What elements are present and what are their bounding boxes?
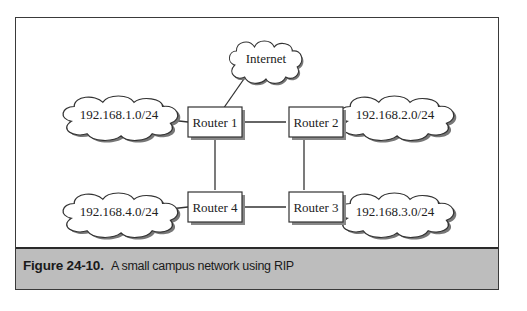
router-label-4: Router 4 — [192, 200, 238, 215]
router-label-2: Router 2 — [293, 115, 338, 130]
router-1: Router 1 — [188, 107, 245, 140]
cloud-label-net2: 192.168.2.0/24 — [356, 107, 435, 122]
cloud-label-net4: 192.168.4.0/24 — [80, 204, 159, 219]
caption-bar: Figure 24-10. A small campus network usi… — [16, 247, 498, 289]
network-diagram: Internet 192.168.1.0/24 192.168.2.0/24 1… — [16, 18, 500, 249]
figure-caption: A small campus network using RIP — [111, 259, 294, 273]
router-4: Router 4 — [188, 192, 245, 225]
cloud-label-internet: Internet — [246, 51, 287, 66]
cloud-label-net3: 192.168.3.0/24 — [356, 204, 435, 219]
figure-frame: Internet 192.168.1.0/24 192.168.2.0/24 1… — [15, 17, 499, 290]
cloud-label-net1: 192.168.1.0/24 — [80, 107, 159, 122]
router-label-3: Router 3 — [293, 200, 338, 215]
figure-number: Figure 24-10. — [23, 258, 104, 273]
link-r1-internet — [223, 76, 246, 109]
router-2: Router 2 — [289, 107, 346, 140]
router-label-1: Router 1 — [192, 115, 237, 130]
router-3: Router 3 — [289, 192, 346, 225]
